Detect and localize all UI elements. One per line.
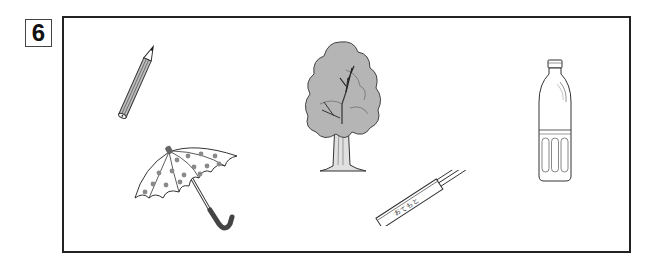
chopsticks-icon: おてもと	[372, 170, 468, 226]
tree-icon	[302, 38, 384, 176]
umbrella-icon	[133, 140, 241, 232]
pencil-icon	[115, 42, 160, 124]
bottle-icon	[535, 58, 575, 184]
question-number: 6	[25, 19, 52, 47]
